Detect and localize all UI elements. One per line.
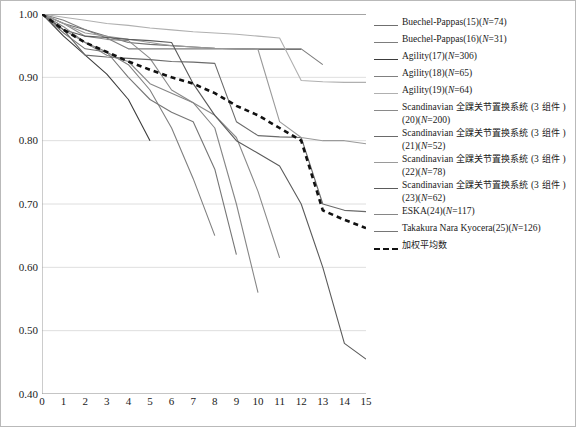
legend-swatch-icon — [374, 157, 398, 169]
y-axis-label-0.60: 0.60 — [19, 262, 38, 273]
y-axis-label-0.70: 0.70 — [19, 199, 38, 210]
legend-label: Takakura Nara Kyocera(25)(N=126) — [402, 222, 541, 235]
y-axis-label-1.00: 1.00 — [19, 9, 38, 20]
legend-label: Agility(19)(N=64) — [402, 84, 472, 97]
legend-label: Agility(18)(N=65) — [402, 67, 472, 80]
x-axis-label-1: 1 — [54, 396, 74, 407]
legend: Buechel-Pappas(15)(N=74)Buechel-Pappas(1… — [374, 16, 574, 256]
legend-item[interactable]: Agility(17)(N=306) — [374, 50, 574, 66]
legend-label: 加权平均数 — [402, 239, 447, 252]
x-axis-label-7: 7 — [183, 396, 203, 407]
x-axis-label-0: 0 — [32, 396, 52, 407]
legend-swatch-icon — [374, 20, 398, 32]
legend-item[interactable]: ESKA(24)(N=117) — [374, 205, 574, 221]
legend-item[interactable]: Scandinavian 全踝关节置换系统 (3 组件 )(20)(N=200) — [374, 101, 574, 126]
x-axis-label-11: 11 — [270, 396, 290, 407]
legend-swatch-icon — [374, 88, 398, 100]
x-axis-label-4: 4 — [118, 396, 138, 407]
x-axis-tick-labels: 0123456789101112131415 — [0, 396, 380, 414]
x-axis-label-5: 5 — [140, 396, 160, 407]
legend-label: Buechel-Pappas(15)(N=74) — [402, 16, 507, 29]
x-axis-label-14: 14 — [334, 396, 354, 407]
y-axis-label-0.50: 0.50 — [19, 325, 38, 336]
legend-swatch-icon — [374, 243, 398, 255]
legend-item[interactable]: Scandinavian 全踝关节置换系统 (3 组件 )(23)(N=62) — [374, 179, 574, 204]
legend-item[interactable]: Agility(18)(N=65) — [374, 67, 574, 83]
series-line-11 — [42, 14, 366, 228]
x-axis-label-8: 8 — [205, 396, 225, 407]
x-axis-label-13: 13 — [313, 396, 333, 407]
x-axis-label-10: 10 — [248, 396, 268, 407]
series-line-4 — [42, 14, 366, 82]
chart-figure: 1.000.900.800.700.600.500.40 01234567891… — [0, 0, 577, 428]
series-line-3 — [42, 14, 215, 236]
legend-swatch-icon — [374, 71, 398, 83]
series-line-5 — [42, 14, 280, 258]
x-axis-label-12: 12 — [291, 396, 311, 407]
legend-item[interactable]: Takakura Nara Kyocera(25)(N=126) — [374, 222, 574, 238]
legend-item[interactable]: Agility(19)(N=64) — [374, 84, 574, 100]
legend-swatch-icon — [374, 209, 398, 221]
plot-svg — [42, 14, 366, 394]
plot-area — [42, 14, 366, 394]
legend-swatch-icon — [374, 54, 398, 66]
x-axis-label-9: 9 — [226, 396, 246, 407]
series-line-9 — [42, 14, 258, 293]
legend-swatch-icon — [374, 226, 398, 238]
legend-label: Scandinavian 全踝关节置换系统 (3 组件 )(22)(N=78) — [402, 153, 574, 178]
legend-label: ESKA(24)(N=117) — [402, 205, 475, 218]
x-axis-label-3: 3 — [97, 396, 117, 407]
legend-swatch-icon — [374, 37, 398, 49]
legend-swatch-icon — [374, 183, 398, 195]
legend-item[interactable]: 加权平均数 — [374, 239, 574, 255]
legend-label: Scandinavian 全踝关节置换系统 (3 组件 )(23)(N=62) — [402, 179, 574, 204]
legend-label: Scandinavian 全踝关节置换系统 (3 组件 )(20)(N=200) — [402, 101, 574, 126]
legend-item[interactable]: Scandinavian 全踝关节置换系统 (3 组件 )(21)(N=52) — [374, 127, 574, 152]
legend-label: Scandinavian 全踝关节置换系统 (3 组件 )(21)(N=52) — [402, 127, 574, 152]
x-axis-label-15: 15 — [356, 396, 376, 407]
x-axis-label-6: 6 — [162, 396, 182, 407]
legend-swatch-icon — [374, 131, 398, 143]
y-axis-label-0.80: 0.80 — [19, 135, 38, 146]
series-line-7 — [42, 14, 366, 144]
x-axis-label-2: 2 — [75, 396, 95, 407]
legend-label: Buechel-Pappas(16)(N=31) — [402, 33, 507, 46]
legend-item[interactable]: Buechel-Pappas(15)(N=74) — [374, 16, 574, 32]
legend-item[interactable]: Scandinavian 全踝关节置换系统 (3 组件 )(22)(N=78) — [374, 153, 574, 178]
y-axis-tick-labels: 1.000.900.800.700.600.500.40 — [0, 0, 38, 428]
legend-swatch-icon — [374, 105, 398, 117]
y-axis-label-0.90: 0.90 — [19, 72, 38, 83]
legend-item[interactable]: Buechel-Pappas(16)(N=31) — [374, 33, 574, 49]
legend-label: Agility(17)(N=306) — [402, 50, 477, 63]
